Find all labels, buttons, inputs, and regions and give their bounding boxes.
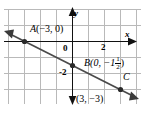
y-axis	[69, 7, 77, 105]
y-axis-label: y	[74, 9, 78, 18]
point-c-marker	[118, 87, 123, 92]
point-b-prefix: B(0, −1	[84, 57, 115, 68]
point-a-marker	[22, 39, 27, 44]
line-arrow-right	[129, 92, 139, 101]
point-c-label: C	[123, 72, 130, 82]
y-tick-minus2-label: -2	[59, 68, 67, 77]
point-b-marker	[70, 63, 75, 68]
x-axis-label: x	[125, 30, 130, 39]
x-tick-2-label: 2	[101, 43, 106, 52]
point-a-coords: (−3, 0)	[36, 23, 63, 34]
point-c-coords-label: (3, −3)	[76, 94, 103, 104]
point-b-suffix: )	[121, 57, 124, 68]
coordinate-plane-figure: y x 0 2 -2 A(−3, 0) B(0, −112) C (3, −3)	[0, 0, 143, 113]
point-a-label: A(−3, 0)	[30, 24, 63, 34]
point-b-label: B(0, −112)	[84, 56, 124, 71]
origin-tick-label: 0	[63, 44, 68, 53]
